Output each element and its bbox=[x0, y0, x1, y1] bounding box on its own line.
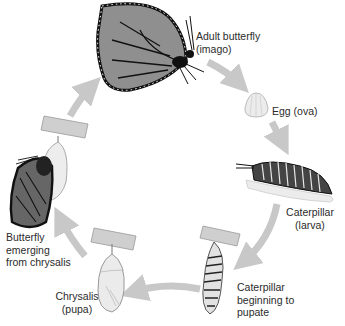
arrow-larva-to-prepupa bbox=[243, 204, 277, 262]
arrow-prepupa-to-pupa bbox=[132, 286, 200, 292]
hanging-caterpillar-icon bbox=[200, 226, 240, 314]
arrow-adult-to-egg bbox=[208, 62, 240, 84]
arrow-egg-to-larva bbox=[272, 122, 283, 144]
arrow-emerging-to-adult bbox=[70, 86, 92, 116]
label-adult-butterfly: Adult butterfly (imago) bbox=[196, 30, 266, 55]
label-caterpillar-pupate: Caterpillar beginning to pupate bbox=[237, 281, 317, 319]
diagram-graphics bbox=[0, 0, 345, 326]
butterfly-icon bbox=[98, 4, 204, 91]
label-egg: Egg (ova) bbox=[272, 105, 342, 118]
caterpillar-icon bbox=[236, 162, 333, 202]
label-butterfly-emerging: Butterfly emerging from chrysalis bbox=[6, 231, 86, 269]
label-caterpillar-larva: Caterpillar (larva) bbox=[280, 206, 340, 231]
emerging-butterfly-icon bbox=[11, 116, 88, 227]
egg-icon bbox=[245, 93, 268, 117]
label-chrysalis-pupa: Chrysalis (pupa) bbox=[52, 290, 102, 315]
life-cycle-diagram: Adult butterfly (imago) Egg (ova) Caterp… bbox=[0, 0, 345, 326]
